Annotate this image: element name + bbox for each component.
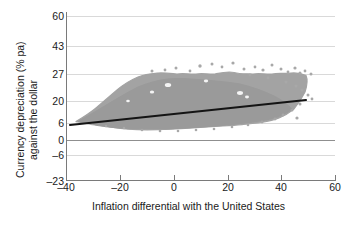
chart-figure: Currency depreciation (% pa) against the… [0, 0, 351, 228]
scatter-cloud [76, 61, 313, 132]
plot-area [0, 0, 351, 228]
x-tick-marks [67, 175, 282, 181]
